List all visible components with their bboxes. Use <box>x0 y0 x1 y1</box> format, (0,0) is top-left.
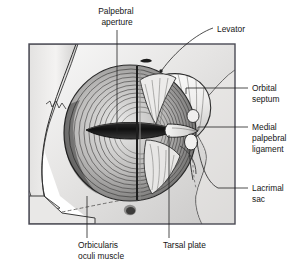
infraorbital-foramen-inner <box>126 207 135 214</box>
leader-levator-dot <box>159 69 162 72</box>
figure-canvas: Palpebral aperture Levator Orbital septu… <box>0 0 295 268</box>
illustration-frame-group <box>29 44 235 224</box>
label-orbital-septum: Orbital septum <box>252 83 279 104</box>
label-orbicularis-oculi-muscle: Orbicularis oculi muscle <box>78 240 124 261</box>
label-palpebral-aperture: Palpebral aperture <box>98 6 136 27</box>
label-levator: Levator <box>217 24 245 34</box>
lacrimal-tubercle <box>187 110 199 123</box>
anatomy-figure: Palpebral aperture Levator Orbital septu… <box>0 0 295 268</box>
label-tarsal-plate: Tarsal plate <box>163 240 206 250</box>
